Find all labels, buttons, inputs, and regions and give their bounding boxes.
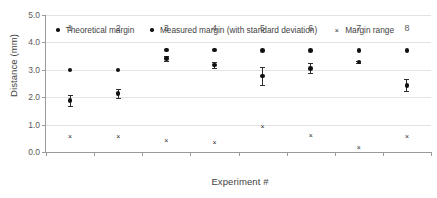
- error-bar-cap: [68, 106, 73, 107]
- data-point-marker-dot: [260, 74, 265, 79]
- legend-marker-dot-icon: [56, 28, 60, 32]
- gridline: [46, 97, 431, 98]
- y-tick-label: 5.0: [28, 10, 40, 20]
- plot-area: 0.01.02.03.04.05.0 12345678 ××××××××: [46, 15, 431, 152]
- data-point-marker-dot: [164, 56, 169, 61]
- gridline: [46, 125, 431, 126]
- y-axis-title: Distance (mm): [8, 6, 19, 126]
- data-point-marker-dot: [116, 91, 121, 96]
- data-point-marker-dot: [405, 83, 410, 88]
- data-point-marker-dot: [68, 68, 73, 73]
- y-tick-label: 2.0: [28, 92, 40, 102]
- scatter-chart: Distance (mm) 0.01.02.03.04.05.0 1234567…: [0, 0, 437, 198]
- error-bar-cap: [116, 98, 121, 99]
- y-tick-label: 0.0: [28, 147, 40, 157]
- data-point-marker-x: ×: [355, 144, 362, 151]
- x-tick-mark: [190, 152, 191, 156]
- data-point-marker-x: ×: [403, 133, 410, 140]
- legend-item: ×Margin range: [333, 25, 394, 35]
- error-bar-cap: [404, 79, 409, 80]
- y-tick-label: 1.0: [28, 120, 40, 130]
- data-point-marker-x: ×: [259, 123, 266, 130]
- gridline: [46, 70, 431, 71]
- legend-marker-dot-icon: [150, 28, 154, 32]
- x-tick-label: 8: [404, 23, 409, 33]
- data-point-marker-dot: [164, 48, 169, 53]
- x-tick-mark: [431, 152, 432, 156]
- error-bar-cap: [404, 91, 409, 92]
- error-bar-cap: [164, 61, 169, 62]
- legend-item: Measured margin (with standard deviation…: [150, 25, 317, 35]
- data-point-marker-dot: [405, 48, 410, 53]
- error-bar-cap: [260, 85, 265, 86]
- legend-marker-x-icon: ×: [333, 27, 340, 34]
- x-axis-title: Experiment #: [46, 176, 434, 187]
- data-point-marker-dot: [212, 48, 217, 53]
- legend-item-label: Theoretical margin: [66, 25, 135, 35]
- data-point-marker-dot: [212, 63, 217, 68]
- data-point-marker-dot: [357, 48, 362, 53]
- x-tick-mark: [46, 152, 47, 156]
- error-bar-cap: [68, 95, 73, 96]
- data-point-marker-dot: [116, 68, 121, 73]
- legend-item-label: Measured margin (with standard deviation…: [160, 25, 317, 35]
- data-point-marker-dot: [308, 48, 313, 53]
- x-tick-mark: [94, 152, 95, 156]
- legend-item: Theoretical margin: [56, 25, 134, 35]
- legend-item-label: Margin range: [345, 25, 394, 35]
- error-bar-cap: [308, 73, 313, 74]
- gridline: [46, 42, 431, 43]
- chart-legend: Theoretical marginMeasured margin (with …: [56, 25, 394, 35]
- error-bar-cap: [260, 67, 265, 68]
- data-point-marker-x: ×: [67, 133, 74, 140]
- x-tick-mark: [335, 152, 336, 156]
- y-tick-label: 3.0: [28, 65, 40, 75]
- y-tick-mark: [42, 42, 46, 43]
- y-tick-mark: [42, 15, 46, 16]
- data-point-marker-x: ×: [211, 139, 218, 146]
- y-tick-mark: [42, 70, 46, 71]
- data-point-marker-x: ×: [115, 133, 122, 140]
- y-tick-mark: [42, 97, 46, 98]
- y-tick-label: 4.0: [28, 37, 40, 47]
- data-point-marker-x: ×: [163, 137, 170, 144]
- x-tick-mark: [383, 152, 384, 156]
- error-bar-cap: [308, 63, 313, 64]
- data-point-marker-dot: [260, 48, 265, 53]
- error-bar-cap: [116, 89, 121, 90]
- x-tick-mark: [239, 152, 240, 156]
- data-point-marker-dot: [68, 98, 73, 103]
- y-tick-mark: [42, 125, 46, 126]
- data-point-marker-dot: [308, 66, 313, 71]
- x-tick-mark: [287, 152, 288, 156]
- gridline: [46, 15, 431, 16]
- error-bar-cap: [212, 68, 217, 69]
- x-tick-mark: [142, 152, 143, 156]
- data-point-marker-x: ×: [307, 132, 314, 139]
